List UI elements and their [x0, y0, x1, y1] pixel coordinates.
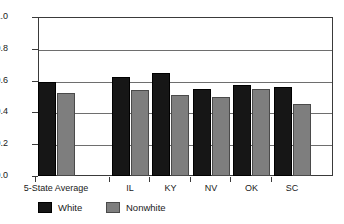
bar-white	[274, 87, 292, 176]
x-axis-tick-mark	[230, 177, 231, 182]
bar-white	[112, 77, 130, 176]
legend-item-white[interactable]: White	[38, 200, 82, 214]
y-axis-tick-label: 0.0	[0, 171, 8, 180]
bar-nonwhite	[57, 93, 75, 176]
bar-white	[38, 82, 56, 176]
bar-nonwhite	[171, 95, 189, 176]
bar-white	[193, 89, 211, 176]
y-axis-tick-label: 0.2	[0, 139, 8, 148]
y-axis-tick-label: 0.8	[0, 44, 8, 53]
x-axis-tick-label: SC	[242, 183, 342, 193]
black-square-swatch	[38, 202, 52, 213]
bars-layer	[38, 17, 333, 176]
x-axis-tick-mark	[271, 177, 272, 182]
y-axis-tick-label: 0.6	[0, 76, 8, 85]
bar-chart: 0.00.20.40.60.81.0 5-State AverageILKYNV…	[0, 0, 344, 224]
bar-nonwhite	[252, 89, 270, 176]
bar-nonwhite	[293, 104, 311, 176]
bar-white	[152, 73, 170, 176]
legend-label: White	[58, 202, 82, 213]
x-axis-tick-mark	[190, 177, 191, 182]
bar-white	[233, 85, 251, 176]
x-axis-tick-mark	[35, 177, 36, 182]
gray-square-swatch	[106, 202, 120, 213]
legend-item-nonwhite[interactable]: Nonwhite	[106, 200, 166, 214]
legend-label: Nonwhite	[126, 202, 166, 213]
x-axis-tick-mark	[109, 177, 110, 182]
y-axis-tick-label: 1.0	[0, 12, 8, 21]
bar-nonwhite	[131, 90, 149, 176]
y-axis-tick-label: 0.4	[0, 107, 8, 116]
bar-nonwhite	[212, 97, 230, 177]
x-axis-tick-mark	[149, 177, 150, 182]
